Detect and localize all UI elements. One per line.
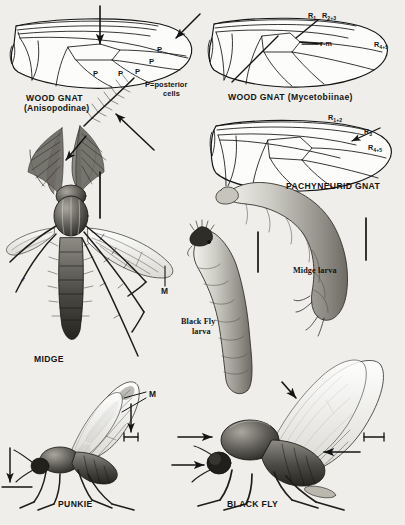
posterior-cells-legend-line2: cells [163, 90, 180, 98]
caption-wood-gnat-anisopodinae-line2: (Anisopodinae) [24, 104, 89, 113]
posterior-cell-mark-5: P [93, 70, 98, 78]
illustration-plate: P P P P P P=posterior cells WOOD GNAT (A… [0, 0, 405, 525]
caption-wood-gnat-mycetobiinae: WOOD GNAT (Mycetobiinae) [228, 93, 353, 102]
midge-vein-label-m: M [161, 287, 168, 296]
plate-artwork [0, 0, 405, 525]
wing-diagram-mycetobiinae [208, 18, 387, 87]
caption-midge: MIDGE [34, 355, 64, 364]
vein-label-r3: R3 [364, 128, 372, 138]
posterior-cell-mark-4: P [118, 70, 123, 78]
punkie-vein-label-m: M [149, 390, 156, 399]
vein-label-r-m: r-m [320, 40, 332, 48]
vein-label-r2-3: R2+3 [322, 12, 336, 22]
posterior-cell-mark-3: P [135, 68, 140, 76]
vein-label-r1-2: R1+2 [328, 114, 342, 124]
caption-black-fly-larva-line2: larva [192, 328, 211, 337]
black-fly-larva-illustration [188, 220, 258, 394]
black-fly-illustration [172, 360, 384, 510]
caption-black-fly-larva-line1: Black Fly [181, 318, 215, 327]
vein-label-r4-5: R4+5 [374, 41, 388, 51]
wing-diagram-anisopodinae [10, 6, 200, 88]
punkie-illustration [2, 382, 146, 510]
midge-illustration [6, 74, 172, 356]
caption-punkie: PUNKIE [58, 500, 93, 509]
caption-black-fly: BLACK FLY [227, 500, 278, 509]
vein-label-r1: R1 [308, 12, 316, 22]
caption-wood-gnat-anisopodinae-line1: WOOD GNAT [26, 94, 83, 103]
caption-midge-larva: Midge larva [293, 267, 337, 276]
vein-label-r4-5-pachyneurid: R4+5 [368, 144, 382, 154]
caption-pachyneurid-gnat: PACHYNEURID GNAT [286, 182, 380, 191]
male-symbol: ♂ [20, 276, 26, 284]
posterior-cell-mark-2: P [149, 58, 154, 66]
posterior-cell-mark-1: P [157, 46, 162, 54]
